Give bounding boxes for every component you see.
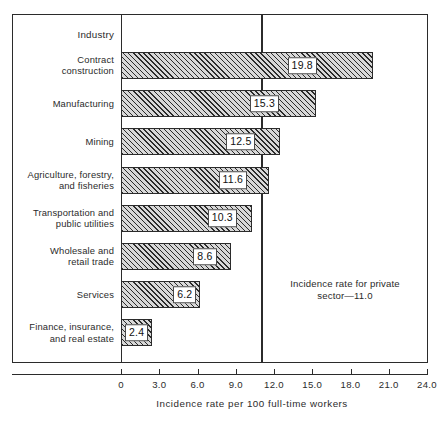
x-tick	[274, 369, 275, 375]
category-axis-line	[121, 14, 122, 363]
category-label-line: Wholesale and	[10, 245, 114, 257]
category-label-line: Manufacturing	[10, 98, 114, 110]
category-label-line: Mining	[10, 136, 114, 148]
reference-annotation: Incidence rate for private sector—11.0	[266, 278, 424, 303]
x-tick-label: 3.0	[152, 379, 166, 390]
x-axis-line	[12, 374, 428, 375]
x-tick	[159, 369, 160, 375]
category-label-line: Transportation and	[10, 207, 114, 219]
category-label: Transportation andpublic utilities	[10, 207, 114, 230]
category-label-line: and fisheries	[10, 180, 114, 192]
x-tick	[312, 369, 313, 375]
x-tick-label: 15.0	[302, 379, 322, 390]
reference-line-11	[261, 14, 262, 363]
x-tick-label: 21.0	[379, 379, 399, 390]
category-label: Mining	[10, 136, 114, 148]
annotation-line-2: sector—11.0	[266, 290, 424, 302]
industry-header-label: Industry	[10, 29, 114, 40]
category-label-line: construction	[10, 65, 114, 77]
x-axis-title: Incidence rate per 100 full-time workers	[0, 398, 446, 409]
x-axis-title-text: Incidence rate per 100 full-time workers	[98, 398, 348, 409]
x-tick	[121, 369, 122, 375]
category-label-line: Finance, insurance,	[10, 321, 114, 333]
category-label: Manufacturing	[10, 98, 114, 110]
x-tick	[351, 369, 352, 375]
x-tick-label: 9.0	[229, 379, 243, 390]
x-tick-label: 12.0	[264, 379, 284, 390]
category-label: Finance, insurance,and real estate	[10, 321, 114, 344]
category-label: Agriculture, forestry,and fisheries	[10, 169, 114, 192]
category-label-line: Services	[10, 289, 114, 301]
x-tick	[427, 369, 428, 375]
category-label: Wholesale andretail trade	[10, 245, 114, 268]
bar-chart: Industry ContractconstructionManufacturi…	[0, 0, 446, 425]
annotation-line-1: Incidence rate for private	[266, 278, 424, 290]
category-label: Services	[10, 289, 114, 301]
category-label-line: and real estate	[10, 333, 114, 345]
category-label: Contractconstruction	[10, 54, 114, 77]
category-labels: Industry ContractconstructionManufacturi…	[10, 0, 114, 425]
x-tick	[236, 369, 237, 375]
category-label-line: public utilities	[10, 218, 114, 230]
x-tick	[389, 369, 390, 375]
category-label-line: Contract	[10, 54, 114, 66]
x-tick	[198, 369, 199, 375]
x-tick-label: 6.0	[190, 379, 204, 390]
x-tick-label: 18.0	[341, 379, 361, 390]
category-label-line: retail trade	[10, 256, 114, 268]
category-label-line: Agriculture, forestry,	[10, 169, 114, 181]
x-tick-label: 0	[118, 379, 124, 390]
x-tick-label: 24.0	[417, 379, 437, 390]
